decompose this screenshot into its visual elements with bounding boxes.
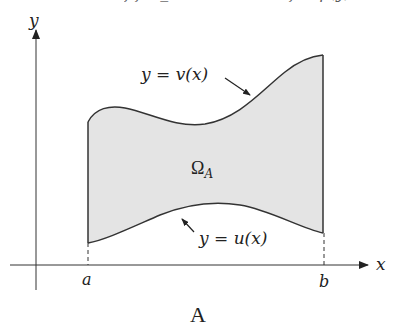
figure-caption: A (190, 302, 206, 327)
upper-label-arrow (225, 78, 250, 95)
omega-symbol: Ω (191, 158, 204, 178)
lower-label-arrow (182, 219, 194, 232)
tick-label-b: b (319, 272, 329, 291)
upper-curve-label: y = v(x) (140, 64, 208, 84)
cutoff-text-left: f f Ω_B (124, 0, 180, 2)
y-axis-label: y (28, 10, 39, 30)
cutoff-text-right: f = p(y) (289, 0, 351, 2)
region-diagram: f f Ω_B f = p(y) x y a b ΩA y = v(x) y =… (0, 0, 396, 329)
lower-curve-label: y = u(x) (198, 228, 267, 248)
tick-label-a: a (82, 270, 92, 289)
omega-subscript: A (203, 167, 213, 181)
cutoff-text-top: f f Ω_B f = p(y) (124, 0, 351, 2)
x-axis-label: x (376, 254, 386, 274)
